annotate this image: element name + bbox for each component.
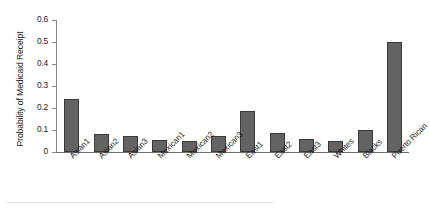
y-tick-label: 0.2: [37, 102, 48, 112]
y-tick-mark: [52, 108, 56, 109]
footer-divider: [6, 202, 274, 203]
y-tick-mark: [52, 20, 56, 21]
y-tick-mark: [52, 152, 56, 153]
x-axis-labels: Asian1Asian2Asian3Mexican1Mexican2Mexica…: [57, 152, 409, 209]
y-tick-mark: [52, 42, 56, 43]
y-tick-label: 0.4: [37, 58, 48, 68]
y-tick-label: 0: [44, 146, 48, 156]
y-tick-mark: [52, 130, 56, 131]
y-axis-title: Probability of Medicaid Receipt: [15, 15, 25, 163]
y-tick-mark: [52, 86, 56, 87]
y-tick-label: 0.3: [37, 80, 48, 90]
bar: [387, 42, 402, 152]
y-tick-label: 0.6: [37, 14, 48, 24]
bar-series: [57, 20, 409, 152]
y-tick-label: 0.1: [37, 124, 48, 134]
y-tick-mark: [52, 64, 56, 65]
y-tick-label: 0.5: [37, 36, 48, 46]
